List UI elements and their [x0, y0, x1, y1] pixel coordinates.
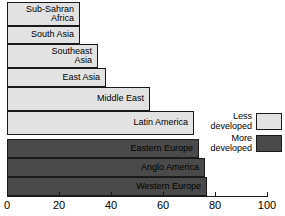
bar-middle-east: Middle East [7, 87, 150, 111]
legend-label: Less developed [210, 112, 256, 131]
x-axis-tick [7, 192, 8, 197]
x-axis-tick [163, 192, 164, 197]
x-axis-tick [215, 192, 216, 197]
bar-label: Eastern Europe [130, 144, 198, 154]
plot-area: Sub-Sahran AfricaSouth AsiaSoutheast Asi… [0, 0, 285, 196]
x-axis-tick [59, 192, 60, 197]
bar-label: Middle East [97, 94, 149, 104]
x-axis-tick-label: 80 [209, 199, 221, 211]
x-axis: 020406080100 [0, 196, 285, 216]
bar-southeast-asia: Southeast Asia [7, 44, 98, 68]
legend-swatch-more [256, 135, 282, 152]
bar-anglo-america: Anglo America [7, 158, 205, 177]
legend-label: More developed [210, 134, 256, 153]
bar-label: Anglo America [141, 163, 204, 173]
x-axis-tick-label: 20 [53, 199, 65, 211]
x-axis-tick-label: 0 [4, 199, 10, 211]
x-axis-tick [111, 192, 112, 197]
bar-label: Western Europe [136, 182, 206, 192]
x-axis-line [7, 196, 267, 197]
bar-latin-america: Latin America [7, 111, 194, 135]
legend-item-less: Less developed [196, 112, 282, 131]
x-axis-tick-label: 40 [105, 199, 117, 211]
bar-label: Southeast Asia [51, 47, 97, 66]
bar-sub-sahran-africa: Sub-Sahran Africa [7, 2, 80, 26]
chart-legend: Less developedMore developed [196, 112, 282, 156]
legend-swatch-less [256, 113, 282, 130]
x-axis-tick-label: 100 [258, 199, 276, 211]
x-axis-tick-label: 60 [157, 199, 169, 211]
bar-label: South Asia [31, 30, 79, 40]
x-axis-tick [267, 192, 268, 197]
bar-chart: Sub-Sahran AfricaSouth AsiaSoutheast Asi… [0, 0, 285, 216]
bar-label: Sub-Sahran Africa [26, 5, 79, 24]
legend-item-more: More developed [196, 134, 282, 153]
bar-label: Latin America [133, 118, 193, 128]
bar-south-asia: South Asia [7, 26, 80, 44]
bar-western-europe: Western Europe [7, 177, 207, 196]
bar-eastern-europe: Eastern Europe [7, 139, 199, 158]
bar-label: East Asia [62, 73, 105, 83]
bar-east-asia: East Asia [7, 68, 106, 87]
